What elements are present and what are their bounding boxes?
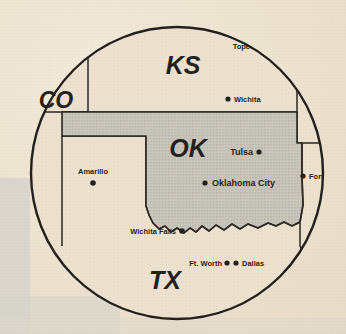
city-dot-amarillo	[90, 180, 96, 186]
city-dot-tulsa	[256, 149, 261, 154]
locator-map-figure: CO KS OK TX Tope Wichita Tulsa Fort Okla…	[0, 0, 346, 334]
city-dot-oklahoma-city	[202, 180, 207, 185]
map-interior	[0, 0, 346, 334]
city-dot-wichita-falls	[179, 228, 185, 234]
city-dot-ft-worth	[224, 260, 229, 265]
city-dot-wichita	[225, 96, 230, 101]
city-dot-fort-smith	[300, 173, 305, 178]
city-dot-dallas	[233, 260, 238, 265]
map-canvas: CO KS OK TX Tope Wichita Tulsa Fort Okla…	[0, 0, 346, 334]
